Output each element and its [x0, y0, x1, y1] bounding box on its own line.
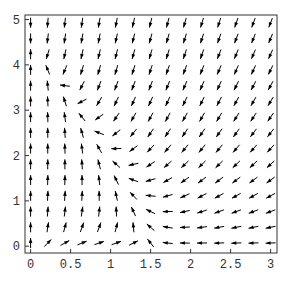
arrow-head-icon — [149, 85, 152, 90]
arrow-head-icon — [116, 241, 121, 244]
arrow-head-icon — [148, 132, 152, 137]
arrow-head-icon — [80, 191, 84, 196]
arrow-head-icon — [232, 194, 237, 198]
arrow-head-icon — [200, 38, 203, 43]
arrow-head-icon — [251, 116, 255, 121]
arrow-head-icon — [78, 100, 83, 104]
y-axis-ticks: 012345 — [13, 14, 29, 255]
arrow-head-icon — [165, 116, 169, 121]
arrow-head-icon — [182, 116, 186, 121]
arrow-head-icon — [146, 163, 151, 167]
arrow-head-icon — [114, 101, 118, 106]
arrow-head-icon — [251, 100, 255, 105]
arrow-head-icon — [46, 65, 50, 70]
arrow-head-icon — [80, 159, 84, 164]
arrow-head-icon — [46, 128, 50, 133]
arrow-head-icon — [216, 132, 220, 137]
arrow-head-icon — [200, 22, 203, 27]
x-tick-label: 1.5 — [140, 258, 162, 272]
arrow-head-icon — [217, 54, 220, 59]
arrow-head-icon — [183, 85, 187, 90]
arrow-head-icon — [97, 160, 100, 165]
arrow-head-icon — [200, 69, 204, 74]
arrow-head-icon — [80, 223, 83, 228]
arrow-head-icon — [166, 38, 169, 43]
arrow-head-icon — [166, 69, 169, 74]
arrow-head-icon — [183, 22, 186, 27]
arrow-head-icon — [217, 116, 221, 121]
arrow-head-icon — [269, 22, 272, 27]
arrow-head-icon — [115, 207, 119, 212]
y-tick-label: 1 — [13, 195, 20, 209]
arrow-head-icon — [197, 226, 202, 230]
arrow-head-icon — [180, 241, 185, 245]
arrow-head-icon — [29, 222, 33, 227]
arrow-head-icon — [97, 85, 100, 90]
arrow-head-icon — [268, 69, 272, 74]
arrow-head-icon — [29, 38, 33, 43]
arrow-head-icon — [183, 101, 187, 106]
arrow-head-icon — [63, 38, 67, 43]
arrow-head-icon — [29, 191, 33, 196]
arrow-head-icon — [46, 144, 50, 149]
arrow-head-icon — [80, 85, 84, 90]
arrow-head-icon — [249, 194, 254, 198]
arrow-head-icon — [115, 69, 118, 74]
arrow-head-icon — [166, 22, 169, 27]
arrow-head-icon — [99, 241, 104, 244]
arrow-head-icon — [131, 116, 135, 121]
x-axis-ticks: 00.511.522.53 — [27, 249, 274, 272]
arrow-head-icon — [46, 222, 50, 227]
arrow-head-icon — [269, 53, 273, 58]
x-tick-label: 2 — [187, 258, 194, 272]
vector-field-plot: 00.511.522.53 012345 — [0, 0, 287, 281]
arrow-head-icon — [29, 49, 33, 54]
arrow-head-icon — [132, 69, 135, 74]
arrow-head-icon — [217, 38, 220, 43]
arrow-head-icon — [200, 116, 204, 121]
arrow-head-icon — [29, 65, 33, 70]
arrow-head-icon — [199, 132, 203, 137]
arrow-head-icon — [115, 54, 118, 59]
arrow-head-icon — [234, 101, 238, 106]
arrow-head-icon — [217, 69, 221, 74]
arrow-head-icon — [60, 84, 65, 88]
arrow-head-icon — [269, 38, 273, 43]
arrow-head-icon — [80, 207, 84, 212]
arrow-head-icon — [183, 54, 186, 59]
arrow-head-icon — [29, 238, 33, 243]
arrow-head-icon — [217, 101, 221, 106]
arrow-head-icon — [266, 241, 271, 245]
arrow-head-icon — [111, 147, 116, 151]
arrow-head-icon — [29, 23, 33, 28]
arrow-head-icon — [80, 69, 83, 74]
arrow-head-icon — [95, 131, 100, 134]
arrow-head-icon — [97, 100, 101, 105]
arrow-head-icon — [197, 210, 202, 213]
x-tick-label: 3 — [267, 258, 274, 272]
arrow-head-icon — [166, 85, 170, 90]
arrow-head-icon — [115, 85, 118, 90]
arrow-head-icon — [63, 191, 67, 196]
arrow-head-icon — [251, 69, 255, 74]
arrow-head-icon — [131, 101, 135, 106]
arrow-head-icon — [29, 96, 33, 101]
arrow-head-icon — [197, 241, 202, 245]
arrow-head-icon — [63, 207, 67, 212]
arrow-head-icon — [235, 38, 238, 43]
arrow-head-icon — [63, 69, 67, 74]
x-tick-label: 1 — [107, 258, 114, 272]
arrow-head-icon — [183, 38, 186, 43]
y-tick-label: 2 — [13, 150, 20, 164]
vector-arrows — [29, 18, 276, 248]
arrow-head-icon — [63, 175, 67, 180]
arrow-head-icon — [63, 97, 66, 102]
arrow-head-icon — [248, 241, 253, 245]
arrow-head-icon — [97, 223, 100, 228]
arrow-head-icon — [29, 128, 33, 133]
arrow-head-icon — [64, 241, 69, 245]
arrow-head-icon — [182, 132, 186, 137]
arrow-head-icon — [163, 179, 168, 183]
arrow-head-icon — [149, 101, 153, 106]
arrow-head-icon — [46, 159, 50, 164]
